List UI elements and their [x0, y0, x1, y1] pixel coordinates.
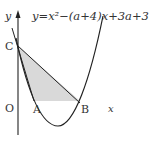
point-c-label: C [5, 40, 13, 53]
point-b-label: B [81, 103, 89, 116]
y-axis-arrow-icon [16, 10, 21, 18]
origin-label: O [5, 102, 14, 115]
y-axis-label: y [4, 10, 12, 23]
parabola-diagram: y y=x²−(a+4)x+3a+3 C O A B x [0, 0, 155, 142]
x-axis-label: x [108, 103, 114, 114]
point-a-label: A [32, 103, 42, 116]
equation-label: y=x²−(a+4)x+3a+3 [31, 9, 149, 23]
